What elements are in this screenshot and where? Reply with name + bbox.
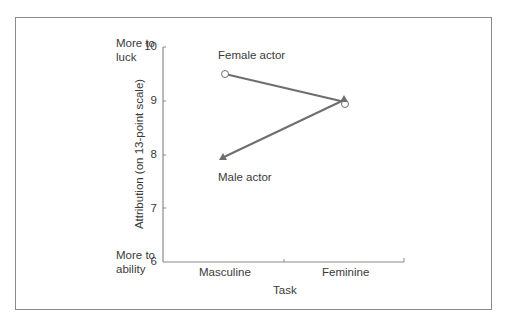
male-actor-line xyxy=(224,100,344,157)
x-category-feminine: Feminine xyxy=(322,265,369,280)
x-axis-label: Task xyxy=(273,283,297,298)
male-feminine-point xyxy=(340,95,348,102)
female-actor-label: Female actor xyxy=(218,48,285,63)
y-tick-10: 10 xyxy=(137,40,157,52)
x-category-masculine: Masculine xyxy=(199,265,251,280)
more-to-luck-label-2: luck xyxy=(116,50,136,65)
y-axis-label: Attribution (on 13-point scale) xyxy=(133,79,145,229)
y-tick-6: 6 xyxy=(137,255,157,267)
male-actor-label: Male actor xyxy=(218,170,272,185)
female-actor-line xyxy=(225,74,345,102)
female-masculine-point xyxy=(222,71,229,78)
